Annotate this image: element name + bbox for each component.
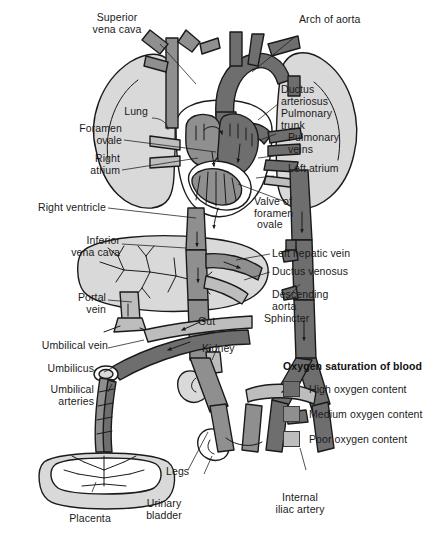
label-inferior-vena-cava: Inferior vena cava [34, 235, 120, 258]
label-placenta: Placenta [50, 513, 130, 525]
label-portal-vein: Portal vein [34, 292, 106, 315]
label-umbilical-vein: Umbilical vein [18, 340, 108, 352]
legend-label-poor: Poor oxygen content [309, 433, 407, 445]
legend-label-high: High oxygen content [309, 383, 407, 395]
label-descending-aorta: Descending aorta [272, 289, 328, 312]
label-valve-of-foramen-ovale: Valve of foramen ovale [254, 196, 293, 231]
umbilical-cord [95, 378, 116, 452]
legend-item-poor: Poor oxygen content [283, 431, 445, 447]
label-right-ventricle: Right ventricle [18, 202, 106, 214]
label-internal-iliac-artery: Internal iliac artery [252, 492, 348, 515]
label-pulmonary-trunk: Pulmonary trunk [281, 108, 332, 131]
legend: Oxygen saturation of blood High oxygen c… [283, 360, 445, 456]
label-ductus-arteriosus: Ductus arteriosus [281, 84, 328, 107]
label-umbilical-arteries: Umbilical arteries [10, 384, 94, 407]
umbilical-vein-vessel [110, 330, 250, 380]
legend-label-medium: Medium oxygen content [309, 408, 423, 420]
legend-title: Oxygen saturation of blood [283, 360, 445, 372]
legend-swatch-high [283, 381, 300, 397]
label-ductus-venosus: Ductus venosus [272, 266, 348, 278]
label-superior-vena-cava: Superior vena cava [69, 12, 165, 35]
label-right-atrium: Right atrium [58, 153, 120, 176]
label-urinary-bladder: Urinary bladder [124, 498, 204, 521]
label-gut: Gut [198, 316, 215, 328]
fetal-circulation-figure: .o{fill:none;stroke:#1a1a1a;stroke-width… [0, 0, 448, 557]
label-legs: Legs [166, 466, 189, 478]
legend-item-high: High oxygen content [283, 381, 445, 397]
label-arch-of-aorta: Arch of aorta [299, 14, 360, 26]
label-sphincter: Sphincter [264, 313, 309, 325]
label-pulmonary-veins: Pulmonary veins [288, 132, 339, 155]
legend-swatch-poor [283, 431, 300, 447]
label-kidney: Kidney [202, 343, 235, 355]
legend-swatch-medium [283, 406, 300, 422]
label-umbilicus: Umbilicus [22, 363, 94, 375]
label-left-atrium: Left atrium [288, 163, 339, 175]
label-left-hepatic-vein: Left hepatic vein [272, 248, 350, 260]
label-foramen-ovale: Foramen ovale [56, 123, 122, 146]
legend-item-medium: Medium oxygen content [283, 406, 445, 422]
fetal-circulation-illustration: .o{fill:none;stroke:#1a1a1a;stroke-width… [0, 0, 448, 557]
label-lung: Lung [88, 106, 148, 118]
